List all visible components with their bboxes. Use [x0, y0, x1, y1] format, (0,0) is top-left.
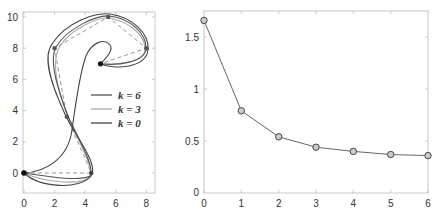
legend-label-k3: k = 3 — [118, 103, 141, 115]
data-point — [238, 108, 244, 114]
right-ytick-1-5: 1.5 — [185, 32, 199, 43]
error-line — [204, 20, 428, 155]
left-ytick-6: 6 — [12, 74, 18, 85]
left-xtick-6: 6 — [113, 198, 119, 209]
left-xtick-8: 8 — [144, 198, 150, 209]
right-xtick-6: 6 — [425, 198, 431, 209]
data-point — [201, 17, 207, 23]
left-ytick-0: 0 — [12, 168, 18, 179]
control-point — [21, 170, 27, 176]
control-point — [144, 46, 148, 50]
right-xtick-5: 5 — [388, 198, 394, 209]
figure: 0 2 4 6 8 0 2 4 6 8 10 — [0, 0, 442, 219]
left-y-tick-labels: 0 2 4 6 8 10 — [7, 12, 19, 179]
right-xtick-2: 2 — [276, 198, 282, 209]
left-xtick-4: 4 — [82, 198, 88, 209]
left-ytick-2: 2 — [12, 136, 18, 147]
data-markers — [201, 17, 431, 159]
legend-label-k0: k = 0 — [118, 117, 141, 129]
control-point — [98, 61, 103, 66]
data-point — [276, 134, 282, 140]
right-y-ticks — [204, 37, 428, 141]
right-xtick-1: 1 — [239, 198, 245, 209]
right-ytick-0: 0 — [193, 187, 199, 198]
right-xtick-3: 3 — [313, 198, 319, 209]
data-point — [388, 151, 394, 157]
control-point — [52, 46, 56, 50]
control-point — [106, 15, 110, 19]
left-ytick-10: 10 — [7, 12, 19, 23]
right-x-tick-labels: 0 1 2 3 4 5 6 — [201, 198, 431, 209]
right-ytick-0-5: 0.5 — [185, 136, 199, 147]
left-plot: 0 2 4 6 8 0 2 4 6 8 10 — [7, 12, 155, 210]
data-point — [350, 148, 356, 154]
right-y-tick-labels: 0 0.5 1 1.5 — [185, 32, 199, 199]
control-point — [89, 171, 93, 175]
right-plot: 0 1 2 3 4 5 6 0 0.5 1 1.5 — [185, 11, 431, 209]
legend-label-k6: k = 6 — [118, 89, 141, 101]
control-point — [65, 115, 69, 119]
left-ytick-8: 8 — [12, 43, 18, 54]
left-xtick-0: 0 — [21, 198, 27, 209]
legend: k = 6 k = 3 k = 0 — [91, 89, 141, 129]
data-point — [425, 152, 431, 158]
right-ytick-1: 1 — [193, 84, 199, 95]
right-xtick-4: 4 — [351, 198, 357, 209]
left-ytick-4: 4 — [12, 105, 18, 116]
left-xtick-2: 2 — [52, 198, 58, 209]
left-x-tick-labels: 0 2 4 6 8 — [21, 198, 149, 209]
data-point — [313, 144, 319, 150]
right-xtick-0: 0 — [201, 198, 207, 209]
